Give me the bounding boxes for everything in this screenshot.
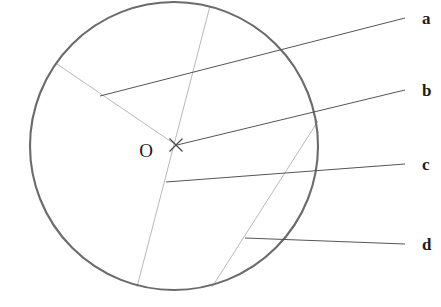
chord-right-to-bottom-line bbox=[212, 121, 318, 287]
diagram-canvas: O a b c d bbox=[0, 0, 441, 307]
label-a: a bbox=[422, 9, 431, 28]
leader-c-line bbox=[166, 164, 405, 182]
label-d: d bbox=[422, 235, 432, 254]
center-point-label: O bbox=[139, 140, 153, 161]
leader-lines-group bbox=[100, 18, 405, 244]
center-mark-group bbox=[170, 139, 183, 152]
leader-a-line bbox=[100, 18, 405, 96]
leader-b-line bbox=[177, 90, 405, 145]
leader-d-line bbox=[245, 238, 405, 244]
radius-upper-left-line bbox=[57, 64, 176, 145]
label-c: c bbox=[422, 155, 430, 174]
label-b: b bbox=[422, 81, 431, 100]
circle-geometry-diagram: O a b c d bbox=[0, 0, 441, 307]
labels-group: a b c d bbox=[422, 9, 432, 254]
